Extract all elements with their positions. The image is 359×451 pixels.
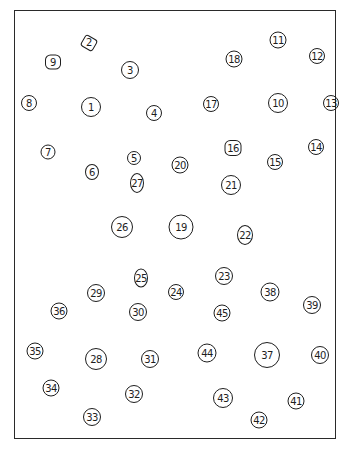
node-label: 39	[306, 300, 318, 311]
node-label: 12	[311, 51, 323, 62]
node-label: 38	[264, 287, 276, 298]
node-label: 35	[29, 346, 41, 357]
node-label: 36	[53, 306, 65, 317]
node-45: 45	[214, 305, 231, 322]
node-38: 38	[261, 283, 280, 302]
node-label: 6	[89, 167, 95, 178]
node-label: 30	[132, 307, 144, 318]
node-22: 22	[237, 225, 253, 245]
node-label: 3	[127, 65, 133, 76]
node-40: 40	[311, 346, 329, 364]
node-11: 11	[270, 32, 287, 49]
node-26: 26	[111, 216, 133, 238]
node-14: 14	[308, 139, 324, 155]
node-33: 33	[83, 408, 101, 426]
node-label: 4	[151, 108, 157, 119]
node-label: 13	[325, 98, 337, 109]
node-label: 42	[253, 415, 265, 426]
node-label: 28	[90, 354, 102, 365]
node-label: 15	[269, 157, 281, 168]
node-32: 32	[125, 385, 143, 403]
node-label: 37	[261, 350, 273, 361]
node-label: 10	[272, 98, 284, 109]
node-label: 7	[45, 147, 51, 158]
node-15: 15	[267, 154, 283, 170]
node-label: 14	[310, 142, 322, 153]
node-label: 11	[272, 35, 284, 46]
node-label: 32	[128, 389, 140, 400]
node-label: 26	[116, 222, 128, 233]
node-label: 34	[45, 383, 57, 394]
node-label: 22	[239, 230, 251, 241]
node-25: 25	[134, 269, 148, 288]
node-20: 20	[172, 157, 189, 174]
node-label: 9	[50, 57, 56, 68]
node-label: 20	[174, 160, 186, 171]
node-label: 45	[216, 308, 228, 319]
node-7: 7	[41, 145, 56, 160]
node-44: 44	[198, 344, 217, 363]
node-17: 17	[203, 96, 219, 112]
node-label: 41	[290, 396, 302, 407]
node-label: 16	[227, 143, 239, 154]
node-43: 43	[213, 388, 233, 408]
node-36: 36	[51, 303, 68, 320]
node-3: 3	[121, 61, 139, 79]
node-label: 2	[86, 38, 92, 49]
node-label: 21	[225, 180, 237, 191]
node-16: 16	[225, 140, 242, 156]
node-12: 12	[309, 48, 325, 64]
node-label: 27	[131, 178, 143, 189]
node-35: 35	[27, 343, 44, 360]
node-42: 42	[251, 412, 268, 429]
node-34: 34	[43, 380, 60, 397]
node-13: 13	[323, 95, 339, 111]
node-label: 31	[144, 354, 156, 365]
node-label: 29	[90, 288, 102, 299]
node-label: 5	[131, 153, 137, 164]
node-label: 23	[218, 271, 230, 282]
node-8: 8	[21, 95, 37, 111]
node-39: 39	[303, 296, 321, 314]
node-4: 4	[146, 105, 162, 121]
node-30: 30	[129, 303, 147, 321]
node-29: 29	[87, 284, 105, 302]
node-41: 41	[288, 393, 305, 410]
node-1: 1	[81, 97, 101, 117]
node-28: 28	[85, 348, 107, 370]
node-37: 37	[254, 342, 280, 368]
node-label: 17	[205, 99, 217, 110]
node-label: 8	[26, 98, 32, 109]
node-24: 24	[168, 284, 184, 300]
node-21: 21	[221, 175, 241, 195]
node-23: 23	[215, 267, 233, 285]
node-9: 9	[45, 55, 61, 70]
node-31: 31	[141, 350, 159, 368]
node-label: 43	[217, 393, 229, 404]
node-label: 19	[175, 222, 187, 233]
node-label: 1	[88, 102, 94, 113]
node-19: 19	[169, 215, 194, 240]
node-5: 5	[127, 151, 141, 165]
node-label: 18	[228, 54, 240, 65]
node-6: 6	[85, 164, 99, 180]
node-label: 24	[170, 287, 182, 298]
node-10: 10	[268, 93, 288, 113]
node-18: 18	[226, 51, 243, 68]
node-27: 27	[130, 173, 144, 193]
node-label: 44	[201, 348, 213, 359]
node-label: 33	[86, 412, 98, 423]
node-label: 40	[314, 350, 326, 361]
node-label: 25	[135, 273, 147, 284]
